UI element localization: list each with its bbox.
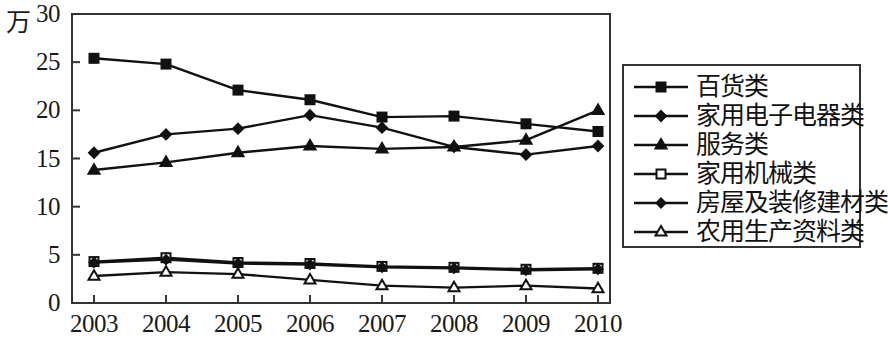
data-point-marker <box>449 282 460 292</box>
data-point-marker <box>306 95 315 104</box>
data-point-marker <box>521 280 532 290</box>
legend-item[interactable]: 服务类 <box>632 130 768 159</box>
data-point-marker <box>377 143 388 153</box>
data-point-marker <box>89 164 100 174</box>
data-point-marker <box>657 169 666 178</box>
data-point-marker <box>90 54 99 63</box>
legend-item[interactable]: 家用机械类 <box>632 159 816 188</box>
legend-marker-filled-triangle-icon <box>632 134 690 156</box>
data-point-marker <box>593 141 603 151</box>
data-point-marker <box>234 86 243 95</box>
data-point-marker <box>521 134 532 144</box>
data-point-marker <box>449 141 460 151</box>
data-point-marker <box>378 113 387 122</box>
legend-marker-open-square-icon <box>632 163 690 185</box>
legend-marker-filled-diamond-icon <box>632 105 690 127</box>
legend-label: 服务类 <box>696 132 768 157</box>
data-point-marker <box>594 127 603 136</box>
data-point-marker <box>161 156 172 166</box>
legend-label: 房屋及装修建材类 <box>696 190 888 215</box>
data-point-marker <box>161 129 171 139</box>
data-point-marker <box>161 266 172 276</box>
legend-marker-filled-diamond-small-icon <box>632 192 690 214</box>
data-point-marker <box>233 124 243 134</box>
legend-label: 家用机械类 <box>696 161 816 186</box>
data-point-marker <box>593 104 604 114</box>
data-point-marker <box>233 147 244 157</box>
data-point-marker <box>657 82 666 91</box>
legend: 百货类家用电子电器类服务类家用机械类房屋及装修建材类农用生产资料类 <box>622 64 861 248</box>
data-point-marker <box>657 198 666 207</box>
legend-label: 农用生产资料类 <box>696 219 864 244</box>
legend-item[interactable]: 百货类 <box>632 72 768 101</box>
data-series <box>90 54 603 136</box>
data-point-marker <box>450 112 459 121</box>
legend-marker-filled-square-icon <box>632 76 690 98</box>
data-point-marker <box>656 226 667 236</box>
legend-item[interactable]: 农用生产资料类 <box>632 217 864 246</box>
data-point-marker <box>89 148 99 158</box>
legend-label: 百货类 <box>696 74 768 99</box>
data-point-marker <box>377 123 387 133</box>
legend-marker-open-triangle-icon <box>632 221 690 243</box>
data-series-group <box>89 54 604 292</box>
data-point-marker <box>233 268 244 278</box>
data-point-marker <box>162 60 171 69</box>
data-point-marker <box>593 283 604 293</box>
legend-item[interactable]: 家用电子电器类 <box>632 101 864 130</box>
data-point-marker <box>377 280 388 290</box>
legend-label: 家用电子电器类 <box>696 103 864 128</box>
data-point-marker <box>656 139 667 149</box>
data-point-marker <box>656 111 666 121</box>
data-point-marker <box>522 119 531 128</box>
data-point-marker <box>305 274 316 284</box>
data-point-marker <box>305 110 315 120</box>
data-point-marker <box>305 140 316 150</box>
data-point-marker <box>89 270 100 280</box>
legend-item[interactable]: 房屋及装修建材类 <box>632 188 888 217</box>
data-point-marker <box>521 150 531 160</box>
